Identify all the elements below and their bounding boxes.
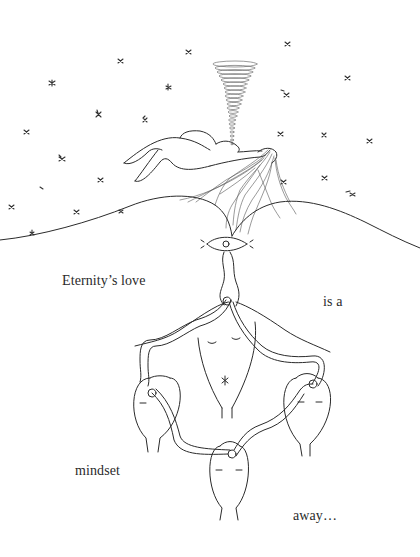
illustration-canvas: Eternity’s love is a mindset away… (0, 0, 420, 557)
flowing-hair (180, 150, 296, 234)
raised-arms (140, 297, 324, 386)
poem-line-3: mindset (75, 463, 120, 479)
right-pod (284, 374, 331, 457)
pods-group (134, 374, 331, 521)
poem-line-4: away… (293, 508, 337, 524)
left-pod (134, 376, 181, 452)
poem-line-1: Eternity’s love (62, 273, 146, 289)
poem-line-2: is a (323, 294, 342, 310)
spiral-vortex-icon (213, 61, 257, 145)
stars-group (9, 42, 372, 235)
rolling-hills (0, 196, 420, 248)
star-icon (9, 42, 372, 235)
bottom-pod (210, 442, 249, 521)
eye-icon (201, 237, 253, 251)
central-figure (135, 302, 330, 418)
